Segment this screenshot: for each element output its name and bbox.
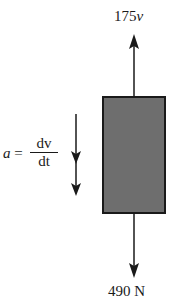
free-body-diagram (0, 0, 172, 304)
acceleration-symbol: a (3, 145, 11, 161)
equals-sign: = (14, 145, 22, 161)
velocity-variable: v (137, 8, 144, 24)
fraction-denominator: dt (28, 154, 60, 169)
upward-force-arrow-icon (129, 34, 139, 97)
acceleration-arrow-icon (71, 114, 81, 196)
force-coefficient: 175 (114, 8, 137, 24)
acceleration-equation: a = (3, 145, 23, 162)
derivative-fraction: dv dt (28, 136, 60, 169)
body-block (103, 97, 165, 213)
fraction-numerator: dv (28, 136, 60, 151)
weight-force-label: 490 N (108, 283, 145, 300)
downward-force-arrow-icon (129, 213, 139, 278)
upward-force-label: 175v (114, 8, 143, 25)
